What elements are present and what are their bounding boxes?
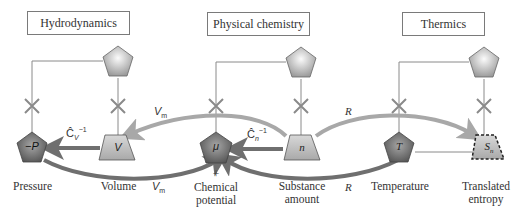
vm-bottom-arrow — [44, 160, 218, 179]
cn-sup: −1 — [259, 127, 267, 134]
cv-inverse-label: ĈV−1 — [66, 126, 87, 141]
cn-main: Ĉ — [247, 128, 255, 140]
substance-caption-line2: amount — [272, 193, 332, 206]
domain-hydrodynamics: Hydrodynamics — [27, 11, 130, 35]
entropy-caption-line1: Translated — [456, 180, 516, 193]
pressure-symbol: −P — [20, 140, 44, 152]
vm-top-label: Vm — [154, 105, 167, 119]
entropy-sub: n — [490, 147, 494, 155]
hydro-connector — [32, 61, 118, 135]
r-top-label: R — [345, 105, 352, 117]
cross-icons — [25, 99, 491, 113]
thermics-connector — [399, 62, 484, 152]
substance-amount-symbol: n — [290, 141, 314, 153]
translated-entropy-caption: Translated entropy — [456, 180, 516, 206]
pressure-caption: Pressure — [10, 180, 55, 193]
thermics-top-pentagon-icon — [469, 47, 499, 77]
chem-top-pentagon-icon — [286, 47, 316, 77]
entropy-caption-line2: entropy — [456, 193, 516, 206]
cn-sub: n — [255, 135, 259, 142]
volume-symbol: V — [106, 141, 130, 153]
temperature-symbol: T — [387, 140, 411, 152]
chemical-caption-line2: potential — [186, 194, 246, 207]
cv-main: Ĉ — [66, 127, 74, 139]
r-top-arrow — [316, 115, 472, 136]
chemical-caption-line1: Chemical — [186, 181, 246, 194]
chemical-potential-plus: + — [206, 168, 226, 181]
vm-top-sub: m — [161, 112, 167, 119]
r-bottom-label: R — [345, 181, 352, 193]
vm-bottom-sub: m — [159, 187, 165, 194]
cv-sup: −1 — [79, 126, 87, 133]
substance-caption-line1: Substance — [272, 180, 332, 193]
cv-sub: V — [74, 134, 79, 141]
r-bottom-arrow — [226, 160, 398, 179]
vm-bottom-label: Vm — [152, 180, 165, 194]
substance-amount-caption: Substance amount — [272, 180, 332, 206]
domain-physical-chemistry: Physical chemistry — [207, 12, 310, 36]
volume-caption: Volume — [96, 180, 141, 193]
chemical-potential-caption: Chemical potential — [186, 181, 246, 207]
cn-inverse-label: Ĉn−1 — [247, 127, 267, 142]
domain-thermics: Thermics — [402, 12, 485, 36]
temperature-caption: Temperature — [368, 180, 432, 193]
hydro-top-pentagon-icon — [103, 46, 133, 76]
chem-connector — [216, 62, 301, 135]
chemical-potential-symbol: μ — [204, 140, 228, 152]
translated-entropy-symbol: Sn — [477, 140, 501, 155]
